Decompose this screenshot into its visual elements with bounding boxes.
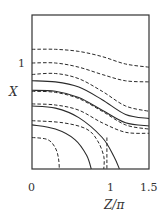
contour-dashed-1 (32, 49, 149, 67)
x-tick-0: 0 (28, 182, 35, 193)
contour-dashed-5 (32, 104, 149, 133)
x-tick-1-5: 1.5 (140, 182, 158, 193)
contour-dashed-4 (32, 91, 149, 129)
contour-solid-4 (32, 125, 91, 169)
contour-solid-1 (32, 81, 149, 119)
x-axis-label: Z/π (104, 198, 124, 212)
x-tick-1: 1 (107, 182, 114, 193)
contour-curves (32, 49, 149, 169)
contour-solid-3 (32, 106, 119, 169)
contour-solid-2 (32, 90, 149, 126)
contour-dashed-6 (32, 121, 104, 169)
y-tick-1: 1 (18, 58, 25, 69)
contour-dashed-7 (32, 138, 59, 170)
y-axis-label: X (9, 85, 18, 99)
